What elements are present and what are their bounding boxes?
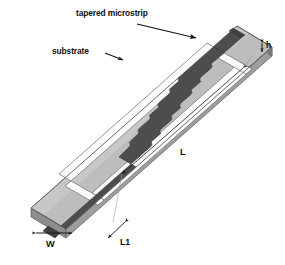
leader-tapered-microstrip	[137, 24, 196, 38]
label-substrate: substrate	[52, 47, 89, 55]
label-length-L: L	[180, 148, 186, 157]
label-width-W: W	[46, 240, 55, 249]
label-thickness-h: h	[266, 41, 271, 50]
leader-substrate	[105, 53, 123, 60]
label-feed-length-L1: L1	[120, 238, 130, 247]
label-tapered-microstrip: tapered microstrip	[76, 9, 148, 17]
substrate-slab	[31, 26, 272, 247]
microstrip-antenna-diagram	[0, 0, 285, 265]
tapered-microstrip	[45, 31, 241, 247]
dimension-L1	[108, 222, 125, 238]
